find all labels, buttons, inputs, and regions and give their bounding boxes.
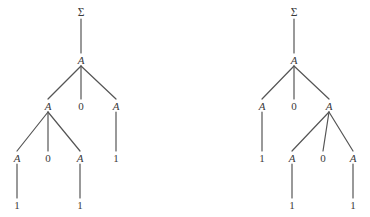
tree-node-r7: 0 <box>320 153 326 164</box>
parse-tree-figure: ΣAA0AA0A111ΣAA0A1A0A11 <box>0 0 370 217</box>
tree-edge <box>48 112 80 151</box>
tree-node-l7: A <box>77 153 84 164</box>
tree-node-r5: 1 <box>259 153 265 164</box>
tree-node-r6: A <box>289 153 296 164</box>
tree-node-l6: 0 <box>45 153 51 164</box>
tree-node-l0: Σ <box>78 7 85 19</box>
tree-node-r4: A <box>326 101 333 112</box>
edge-layer <box>17 19 353 198</box>
tree-node-r9: 1 <box>289 200 295 211</box>
left-parse-tree-edges <box>17 19 116 198</box>
tree-node-r3: 0 <box>291 101 297 112</box>
tree-node-r0: Σ <box>291 7 298 19</box>
tree-node-l3: 0 <box>78 101 84 112</box>
tree-node-l4: A <box>113 101 120 112</box>
right-parse-tree-edges <box>262 19 353 198</box>
tree-node-r8: A <box>350 153 357 164</box>
tree-edge <box>81 66 116 99</box>
tree-node-l2: A <box>45 101 52 112</box>
tree-edge <box>48 66 81 99</box>
tree-node-r2: A <box>259 101 266 112</box>
tree-edge <box>294 66 329 99</box>
tree-node-l10: 1 <box>77 200 83 211</box>
tree-node-r10: 1 <box>350 200 356 211</box>
tree-node-l5: A <box>14 153 21 164</box>
tree-edge <box>262 66 294 99</box>
tree-node-l8: 1 <box>113 153 119 164</box>
tree-edge <box>17 112 48 151</box>
tree-node-l1: A <box>78 55 85 66</box>
tree-node-l9: 1 <box>14 200 20 211</box>
tree-edge <box>329 112 353 151</box>
tree-node-r1: A <box>291 55 298 66</box>
tree-edges-canvas <box>0 0 370 217</box>
